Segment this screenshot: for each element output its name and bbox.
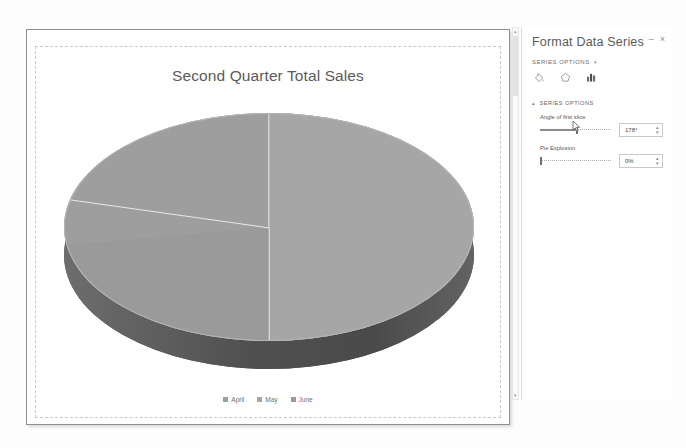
slice-divider-1 bbox=[268, 113, 269, 228]
format-data-series-pane: Format Data Series – × SERIES OPTIONS ▾ bbox=[521, 27, 671, 400]
slice-divider-3 bbox=[268, 228, 269, 341]
legend-label: June bbox=[299, 396, 313, 403]
minimize-icon[interactable]: – bbox=[649, 35, 654, 44]
pane-title: Format Data Series bbox=[532, 35, 663, 49]
spinner-arrows[interactable]: ▴ ▾ bbox=[656, 156, 659, 166]
pie-explosion-label: Pie Explosion bbox=[540, 145, 663, 151]
pane-scrollbar[interactable]: ▴ ▾ bbox=[512, 27, 519, 400]
slider-thumb[interactable] bbox=[540, 157, 542, 165]
spinner-down-icon[interactable]: ▾ bbox=[656, 130, 659, 135]
pane-window-buttons: – × bbox=[649, 35, 665, 44]
pie-explosion-slider[interactable] bbox=[540, 156, 613, 166]
fill-line-icon[interactable] bbox=[533, 71, 546, 84]
series-options-icon[interactable] bbox=[585, 71, 598, 84]
legend-item[interactable]: May bbox=[257, 396, 277, 403]
slide-canvas[interactable]: Second Quarter Total Sales April bbox=[26, 29, 510, 425]
field-angle-of-first-slice: Angle of first slice 178° ▴ ▾ bbox=[522, 112, 671, 137]
chart-object[interactable]: Second Quarter Total Sales April bbox=[35, 46, 501, 418]
chart-legend[interactable]: April May June bbox=[36, 396, 500, 403]
pie-chart-3d[interactable] bbox=[46, 103, 492, 373]
legend-swatch-icon bbox=[291, 397, 296, 402]
legend-item[interactable]: June bbox=[291, 396, 313, 403]
app-root: Second Quarter Total Sales April bbox=[0, 0, 686, 448]
pie-top-surface[interactable] bbox=[64, 113, 474, 341]
pane-tab-icons bbox=[522, 67, 671, 90]
angle-of-first-slice-value[interactable]: 178° bbox=[620, 127, 637, 133]
pane-subhead-label: SERIES OPTIONS bbox=[532, 59, 590, 65]
series-options-section-header[interactable]: ▴ SERIES OPTIONS bbox=[522, 90, 671, 112]
mouse-cursor-icon bbox=[572, 119, 581, 132]
chart-title[interactable]: Second Quarter Total Sales bbox=[36, 67, 500, 85]
angle-of-first-slice-label: Angle of first slice bbox=[540, 114, 663, 120]
spinner-arrows[interactable]: ▴ ▾ bbox=[656, 125, 659, 135]
slider-track bbox=[540, 160, 611, 161]
series-options-section-label: SERIES OPTIONS bbox=[540, 100, 594, 106]
pie-explosion-spinner[interactable]: 0% ▴ ▾ bbox=[619, 154, 663, 168]
scroll-up-arrow-icon[interactable]: ▴ bbox=[513, 28, 518, 35]
legend-label: May bbox=[265, 396, 277, 403]
legend-swatch-icon bbox=[223, 397, 228, 402]
scrollbar-thumb[interactable] bbox=[513, 36, 518, 96]
chevron-down-icon[interactable]: ▾ bbox=[594, 59, 598, 65]
slider-fill bbox=[540, 129, 576, 131]
close-icon[interactable]: × bbox=[660, 35, 665, 44]
legend-item[interactable]: April bbox=[223, 396, 244, 403]
pane-header: Format Data Series – × bbox=[522, 27, 671, 53]
pie-explosion-value[interactable]: 0% bbox=[620, 158, 634, 164]
pane-series-options-dropdown[interactable]: SERIES OPTIONS ▾ bbox=[522, 53, 671, 67]
angle-of-first-slice-spinner[interactable]: 178° ▴ ▾ bbox=[619, 123, 663, 137]
effects-icon[interactable] bbox=[559, 71, 572, 84]
scroll-down-arrow-icon[interactable]: ▾ bbox=[513, 392, 518, 399]
field-pie-explosion: Pie Explosion 0% ▴ ▾ bbox=[522, 137, 671, 168]
legend-label: April bbox=[231, 396, 244, 403]
legend-swatch-icon bbox=[257, 397, 262, 402]
chevron-up-icon[interactable]: ▴ bbox=[532, 100, 536, 106]
spinner-down-icon[interactable]: ▾ bbox=[656, 161, 659, 166]
